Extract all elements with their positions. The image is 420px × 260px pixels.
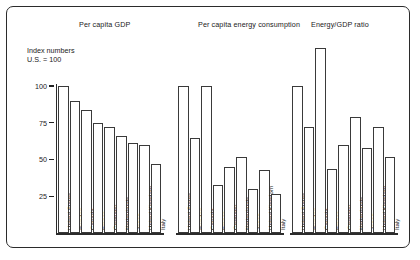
group-title-2: Per capita energy consumption [198, 20, 300, 29]
y-axis-line [56, 84, 58, 233]
group-baseline-2 [176, 233, 284, 235]
bar-label: Italy [279, 218, 286, 229]
group-baseline-1 [56, 233, 164, 235]
group-title-3: Energy/GDP ratio [311, 20, 369, 29]
bar-label: Italy [159, 218, 166, 229]
bar-label: Italy [393, 218, 400, 229]
y-tick-label-25: 25 [25, 192, 47, 201]
y-tick-label-100: 100 [25, 82, 47, 91]
y-tick-mark-75 [49, 122, 54, 123]
y-tick-mark-25 [49, 196, 54, 197]
group-title-1: Per capita GDP [79, 20, 130, 29]
group-baseline-3 [290, 233, 398, 235]
y-tick-mark-50 [49, 159, 54, 160]
y-tick-label-75: 75 [25, 119, 47, 128]
y-tick-label-50: 50 [25, 155, 47, 164]
chart-plot-area: 100755025Per capita GDPUnited StatesSwed… [0, 0, 420, 260]
y-tick-mark-100 [49, 85, 54, 86]
bar [315, 48, 326, 234]
